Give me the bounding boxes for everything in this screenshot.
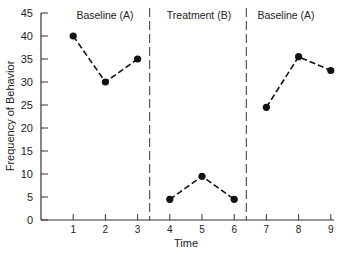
y-tick-label: 45 [21,7,33,19]
x-tick-label: 4 [167,224,173,235]
data-point [327,67,334,74]
y-axis-label: Frequency of Behavior [4,60,16,171]
x-tick-label: 8 [296,224,302,235]
data-point [70,32,77,39]
data-point [198,173,205,180]
x-tick-label: 3 [135,224,141,235]
data-point [231,196,238,203]
y-tick-label: 5 [27,191,33,203]
ab-design-chart: 051015202530354045123456789 Baseline (A)… [0,0,337,255]
x-axis-label: Time [174,237,198,249]
axes: 051015202530354045123456789 [21,7,334,235]
data-point [102,78,109,85]
x-tick-label: 1 [70,224,76,235]
y-tick-label: 20 [21,122,33,134]
y-tick-label: 15 [21,145,33,157]
x-tick-label: 7 [264,224,270,235]
phase-dividers [150,8,247,220]
phase-label: Treatment (B) [167,9,231,21]
data-point [295,53,302,60]
x-tick-label: 2 [103,224,109,235]
data-series [70,32,335,203]
x-tick-label: 6 [231,224,237,235]
y-tick-label: 10 [21,168,33,180]
data-point [134,55,141,62]
phase-labels: Baseline (A)Treatment (B)Baseline (A) [76,9,314,21]
y-tick-label: 40 [21,30,33,42]
phase-label: Baseline (A) [257,9,314,21]
phase-line [73,36,137,82]
data-point [166,196,173,203]
data-point [263,104,270,111]
y-tick-label: 0 [27,214,33,226]
phase-line [266,57,330,108]
y-tick-label: 30 [21,76,33,88]
y-tick-label: 25 [21,99,33,111]
phase-label: Baseline (A) [76,9,133,21]
x-tick-label: 9 [328,224,334,235]
y-tick-label: 35 [21,53,33,65]
x-tick-label: 5 [199,224,205,235]
